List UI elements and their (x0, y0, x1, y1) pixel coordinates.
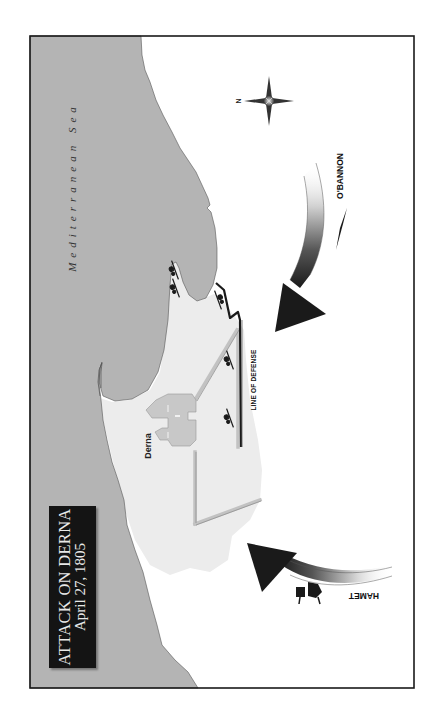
map-title: ATTACK ON DERNA (56, 506, 73, 668)
defense-line-label: LINE OF DEFENSE (250, 349, 257, 410)
hamet-label: HAMET (349, 591, 379, 601)
sea-label: Mediterranean Sea (66, 102, 78, 272)
compass-north-label: N (235, 98, 242, 103)
obannon-label: O'BANNON (335, 153, 345, 199)
map-date: April 27, 1805 (73, 506, 89, 668)
map-title-box: ATTACK ON DERNA April 27, 1805 (49, 506, 96, 668)
town-label: Derna (143, 433, 153, 459)
